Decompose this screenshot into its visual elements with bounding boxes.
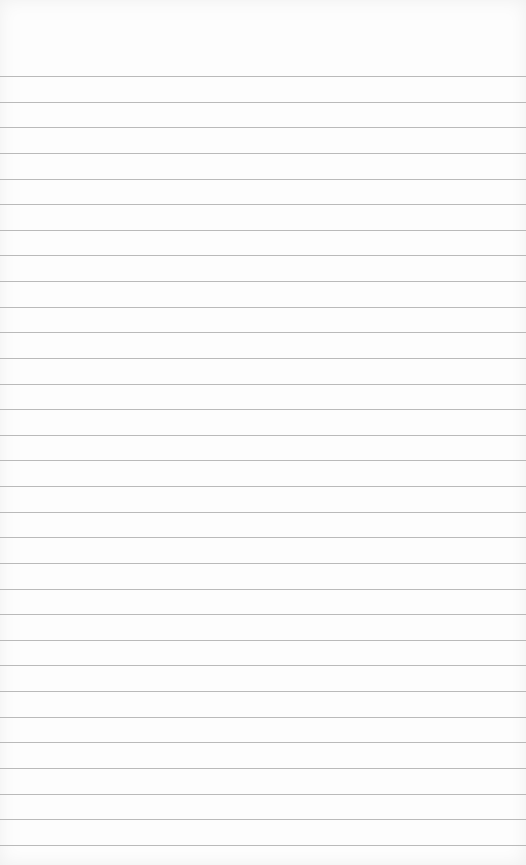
ruled-line xyxy=(0,794,526,795)
ruled-line xyxy=(0,563,526,564)
ruled-line xyxy=(0,230,526,231)
ruled-line xyxy=(0,204,526,205)
ruled-line xyxy=(0,179,526,180)
ruled-line xyxy=(0,358,526,359)
ruled-line xyxy=(0,102,526,103)
ruled-line xyxy=(0,281,526,282)
ruled-line xyxy=(0,460,526,461)
ruled-line xyxy=(0,665,526,666)
ruled-line xyxy=(0,589,526,590)
ruled-line xyxy=(0,512,526,513)
ruled-line xyxy=(0,717,526,718)
ruled-line xyxy=(0,384,526,385)
ruled-line xyxy=(0,768,526,769)
ruled-line xyxy=(0,435,526,436)
ruled-line xyxy=(0,127,526,128)
ruled-line xyxy=(0,819,526,820)
ruled-line xyxy=(0,307,526,308)
ruled-line xyxy=(0,486,526,487)
ruled-line xyxy=(0,845,526,846)
ruled-line xyxy=(0,614,526,615)
ruled-line xyxy=(0,742,526,743)
ruled-line xyxy=(0,153,526,154)
ruled-line xyxy=(0,255,526,256)
ruled-line xyxy=(0,537,526,538)
ruled-line xyxy=(0,76,526,77)
ruled-line xyxy=(0,691,526,692)
lined-paper xyxy=(0,0,526,865)
ruled-line xyxy=(0,409,526,410)
ruled-line xyxy=(0,640,526,641)
ruled-line xyxy=(0,332,526,333)
